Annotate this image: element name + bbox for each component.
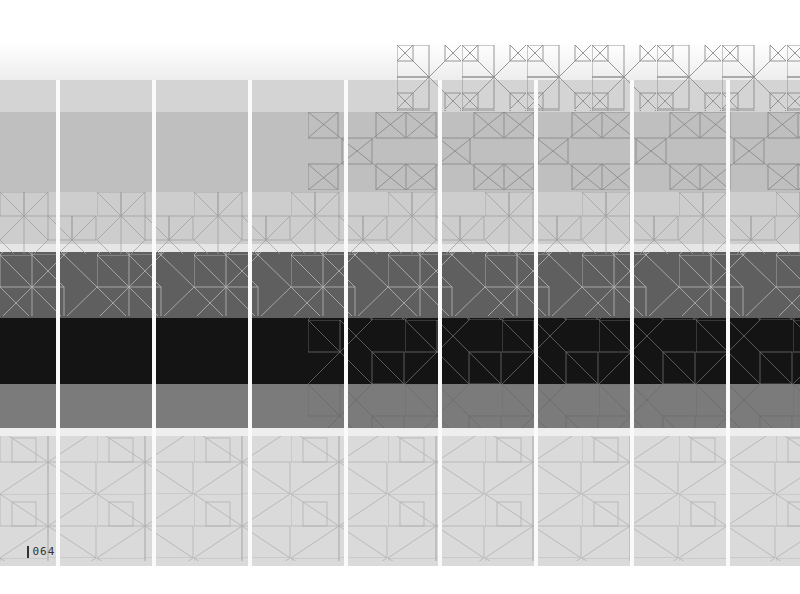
abstract-geometric-artwork [0,0,800,594]
page-number-text: 064 [33,545,56,558]
page-number: 064 [27,545,55,558]
page-number-rule [27,546,29,558]
